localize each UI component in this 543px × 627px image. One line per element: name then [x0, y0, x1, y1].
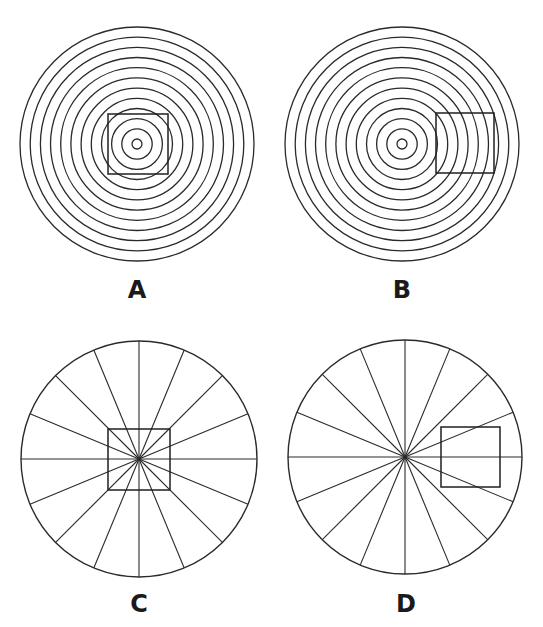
spoke: [405, 374, 488, 457]
spoke: [322, 374, 405, 457]
ring: [377, 119, 428, 170]
spoke: [56, 376, 139, 459]
spoke: [56, 459, 139, 542]
ring: [346, 88, 458, 200]
ring: [122, 129, 152, 159]
radial-spokes-c: [21, 341, 257, 577]
ring: [51, 58, 224, 231]
ring: [387, 129, 417, 159]
ring: [397, 139, 407, 149]
concentric-rings-b: [285, 27, 519, 261]
panel-label-c: C: [130, 590, 148, 618]
spoke: [139, 459, 222, 542]
ring: [20, 27, 254, 261]
ring: [40, 47, 233, 240]
ring: [91, 98, 182, 189]
panel-d: D: [288, 340, 522, 618]
ring: [132, 139, 142, 149]
ring: [326, 68, 479, 221]
ring: [316, 58, 489, 231]
ring: [81, 88, 193, 200]
diagram-figure: A B C D: [0, 0, 543, 627]
ring: [30, 37, 244, 251]
square-a: [108, 114, 168, 174]
ring: [305, 47, 498, 240]
ring: [356, 98, 447, 189]
panel-b: B: [285, 27, 519, 304]
ring: [285, 27, 519, 261]
panel-a: A: [20, 27, 254, 304]
ring: [295, 37, 509, 251]
concentric-rings-a: [20, 27, 254, 261]
panel-c: C: [21, 341, 257, 618]
ring: [61, 68, 214, 221]
ring: [112, 119, 163, 170]
spoke: [322, 457, 405, 540]
radial-spokes-d: [288, 340, 522, 574]
panel-label-a: A: [128, 276, 147, 304]
panel-label-d: D: [396, 590, 416, 618]
panel-label-b: B: [393, 276, 411, 304]
spoke: [405, 457, 488, 540]
spoke: [139, 376, 222, 459]
